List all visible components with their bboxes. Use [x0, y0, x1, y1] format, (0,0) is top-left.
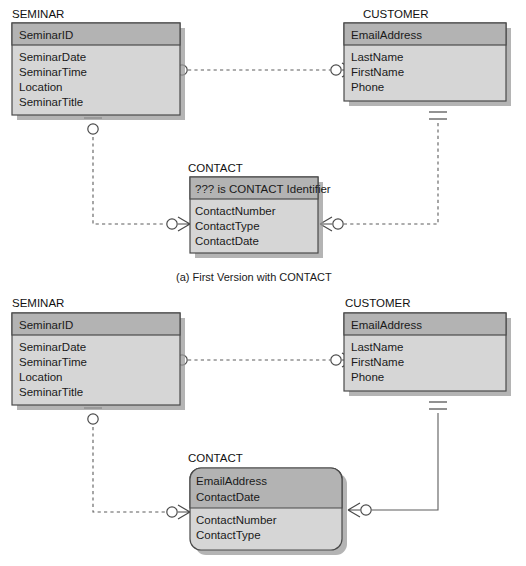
entity-contact-a-attribute-2: ContactType [195, 220, 260, 232]
entity-contact-b[interactable]: CONTACT EmailAddress ContactDate Contact… [188, 452, 347, 555]
relationship-line [344, 123, 438, 224]
entity-seminar-a-attribute-4: SeminarTitle [19, 96, 83, 108]
cardinality-optional-one-seminar-b [84, 408, 102, 424]
relationship-customer-contact-b [348, 402, 447, 517]
relationship-seminar-contact-b [84, 408, 190, 519]
entity-seminar-b-identifier: SeminarID [19, 319, 73, 331]
entity-contact-b-identifier-1: EmailAddress [196, 475, 267, 487]
entity-customer-b-attribute-1: LastName [351, 341, 403, 353]
cardinality-mandatory-one-customer-a [429, 112, 447, 119]
relationship-seminar-contact-a [84, 118, 190, 231]
entity-seminar-a-attribute-2: SeminarTime [19, 66, 87, 78]
relationship-seminar-customer-a [164, 63, 354, 77]
cardinality-optional-many-contact-a-right [320, 217, 343, 231]
entity-contact-b-identifier-2: ContactDate [196, 491, 260, 503]
entity-seminar-b-attribute-2: SeminarTime [19, 356, 87, 368]
er-diagram-canvas: SEMINAR SeminarID SeminarDate SeminarTim… [0, 0, 526, 566]
entity-contact-a-title: CONTACT [188, 162, 243, 174]
entity-customer-b-identifier: EmailAddress [351, 319, 422, 331]
entity-customer-b-title: CUSTOMER [345, 297, 411, 309]
relationship-line [372, 413, 438, 510]
cardinality-optional-many-contact-a-left [167, 217, 190, 231]
cardinality-optional-many-contact-b-left [167, 505, 190, 519]
cardinality-optional-one-seminar-a [84, 118, 102, 134]
cardinality-mandatory-one-customer-b [429, 402, 447, 409]
entity-seminar-a-identifier: SeminarID [19, 29, 73, 41]
entity-contact-a-attribute-3: ContactDate [195, 235, 259, 247]
entity-seminar-b-attribute-1: SeminarDate [19, 341, 86, 353]
entity-seminar-b[interactable]: SEMINAR SeminarID SeminarDate SeminarTim… [12, 297, 185, 410]
entity-contact-a-identifier-note: ??? is CONTACT Identifier [195, 183, 331, 195]
entity-contact-a[interactable]: CONTACT ??? is CONTACT Identifier Contac… [188, 162, 331, 258]
relationship-seminar-customer-b [164, 353, 354, 367]
entity-customer-a-identifier: EmailAddress [351, 29, 422, 41]
entity-customer-a[interactable]: CUSTOMER EmailAddress LastName FirstName… [344, 8, 511, 106]
entity-customer-a-attribute-2: FirstName [351, 66, 404, 78]
relationship-line [93, 427, 166, 512]
entity-seminar-b-attribute-4: SeminarTitle [19, 386, 83, 398]
entity-seminar-b-title: SEMINAR [12, 297, 64, 309]
relationship-line [93, 137, 166, 224]
entity-customer-a-attribute-3: Phone [351, 81, 384, 93]
entity-seminar-a-attribute-1: SeminarDate [19, 51, 86, 63]
caption-diagram-a: (a) First Version with CONTACT [176, 271, 332, 283]
entity-contact-b-title: CONTACT [188, 452, 243, 464]
relationship-customer-contact-a [320, 112, 447, 231]
entity-contact-b-attribute-1: ContactNumber [196, 514, 277, 526]
entity-customer-a-attribute-1: LastName [351, 51, 403, 63]
entity-seminar-a-attribute-3: Location [19, 81, 62, 93]
entity-seminar-b-attribute-3: Location [19, 371, 62, 383]
entity-seminar-a-title: SEMINAR [12, 8, 64, 20]
entity-seminar-a[interactable]: SEMINAR SeminarID SeminarDate SeminarTim… [12, 8, 185, 120]
entity-customer-b[interactable]: CUSTOMER EmailAddress LastName FirstName… [344, 297, 511, 396]
cardinality-optional-many-contact-b-right [348, 503, 371, 517]
entity-contact-b-attribute-2: ContactType [196, 529, 261, 541]
entity-contact-a-attribute-1: ContactNumber [195, 205, 276, 217]
entity-customer-b-attribute-3: Phone [351, 371, 384, 383]
er-diagram-figure: SEMINAR SeminarID SeminarDate SeminarTim… [0, 0, 526, 566]
entity-customer-b-attribute-2: FirstName [351, 356, 404, 368]
entity-customer-a-title: CUSTOMER [363, 8, 429, 20]
